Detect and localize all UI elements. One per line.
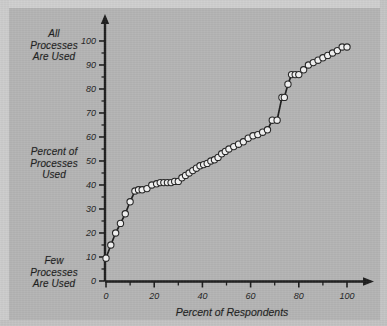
data-point-marker bbox=[281, 94, 287, 100]
y-axis-tick-label: 40 bbox=[86, 180, 96, 190]
y-axis-tick-label: 70 bbox=[86, 108, 96, 118]
data-point-marker bbox=[127, 199, 133, 205]
x-axis-tick-label: 0 bbox=[103, 291, 108, 301]
data-point-marker bbox=[108, 242, 114, 248]
y-axis-top-annotation-line-2: Processes bbox=[12, 40, 96, 52]
y-axis-title-line-3: Used bbox=[8, 169, 100, 181]
x-axis-tick-label: 40 bbox=[197, 291, 207, 301]
y-axis-bottom-annotation-line-3: Are Used bbox=[10, 278, 98, 290]
data-point-marker bbox=[264, 127, 270, 133]
data-point-marker bbox=[344, 44, 350, 50]
y-axis-tick-label: 80 bbox=[86, 84, 96, 94]
y-axis-top-annotation-line-1: All bbox=[12, 28, 96, 40]
x-axis-tick-label: 20 bbox=[148, 291, 159, 301]
x-axis-title: Percent of Respondents bbox=[112, 306, 352, 318]
x-axis-tick-label: 60 bbox=[246, 291, 256, 301]
y-axis-title-line-1: Percent of bbox=[8, 146, 100, 158]
y-axis-tick-label: 20 bbox=[85, 228, 96, 238]
y-axis-bottom-annotation-line-2: Processes bbox=[10, 267, 98, 279]
y-axis-arrowhead bbox=[101, 14, 109, 24]
y-axis-bottom-annotation-line-1: Few bbox=[10, 255, 98, 267]
chart-figure: 0102030405060708090100020406080100 All P… bbox=[0, 0, 387, 326]
x-axis-arrowhead bbox=[363, 277, 374, 285]
data-point-marker bbox=[274, 117, 280, 123]
data-point-marker bbox=[285, 81, 291, 87]
y-axis-tick-label: 30 bbox=[86, 204, 96, 214]
x-axis-tick-label: 80 bbox=[294, 291, 304, 301]
y-axis-title: Percent of Processes Used bbox=[8, 146, 100, 181]
data-point-marker bbox=[122, 211, 128, 217]
series-markers bbox=[103, 44, 350, 262]
y-axis-top-annotation: All Processes Are Used bbox=[12, 28, 96, 63]
data-point-marker bbox=[112, 230, 118, 236]
data-point-marker bbox=[117, 220, 123, 226]
data-point-marker bbox=[103, 255, 109, 261]
y-axis-top-annotation-line-3: Are Used bbox=[12, 51, 96, 63]
y-axis-bottom-annotation: Few Processes Are Used bbox=[10, 255, 98, 290]
y-axis-title-line-2: Processes bbox=[8, 158, 100, 170]
x-axis-tick-label: 100 bbox=[339, 291, 354, 301]
y-axis-tick-label: 60 bbox=[86, 132, 96, 142]
